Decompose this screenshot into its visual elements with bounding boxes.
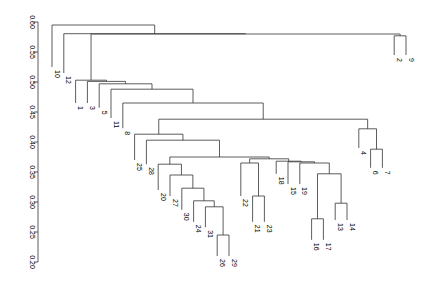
leaf-label: 17 — [325, 243, 332, 251]
leaf-label: 20 — [160, 193, 167, 201]
tick-label: 0.30 — [29, 195, 36, 209]
leaf-label: 21 — [254, 225, 261, 233]
leaf-label: 11 — [113, 121, 120, 128]
leaf-label: 22 — [242, 199, 249, 207]
tick-label: 0.40 — [29, 135, 36, 149]
leaf-label: 9 — [408, 58, 415, 62]
leaf-label: 19 — [301, 187, 308, 195]
leaf-label: 27 — [172, 199, 179, 207]
leaf-label: 13 — [337, 223, 344, 231]
leaf-label: 26 — [219, 259, 226, 267]
leaf-label: 2 — [396, 58, 403, 62]
leaf-label: 23 — [266, 225, 273, 233]
leaf-label: 31 — [207, 230, 214, 238]
leaf-label: 24 — [195, 225, 202, 233]
tick-label: 0.25 — [29, 225, 36, 239]
leaf-label: 25 — [136, 163, 143, 171]
tick-label: 0.55 — [29, 45, 36, 59]
y-axis: 0.200.250.300.350.400.450.500.550.60 — [29, 15, 38, 269]
leaf-label: 15 — [290, 187, 297, 195]
leaf-label: 16 — [313, 243, 320, 251]
leaf-label: 7 — [384, 171, 391, 175]
leaf-label: 3 — [89, 106, 96, 110]
leaf-labels: 1012135118252820273024312629222123181519… — [54, 58, 415, 267]
dendrogram-tree — [52, 25, 406, 256]
tick-label: 0.35 — [29, 165, 36, 179]
leaf-label: 18 — [278, 177, 285, 185]
leaf-label: 4 — [360, 151, 367, 155]
tick-label: 0.45 — [29, 105, 36, 119]
leaf-label: 29 — [231, 259, 238, 267]
leaf-label: 6 — [372, 171, 379, 175]
leaf-label: 5 — [101, 111, 108, 115]
dendrogram-chart: 0.200.250.300.350.400.450.500.550.60 101… — [0, 0, 430, 292]
leaf-label: 28 — [148, 167, 155, 175]
leaf-label: 12 — [65, 76, 72, 84]
leaf-label: 8 — [124, 131, 131, 135]
leaf-label: 1 — [77, 106, 84, 110]
tick-label: 0.20 — [29, 255, 36, 269]
tick-label: 0.60 — [29, 15, 36, 29]
tick-label: 0.50 — [29, 75, 36, 89]
leaf-label: 30 — [183, 213, 190, 221]
leaf-label: 10 — [54, 70, 61, 78]
leaf-label: 14 — [349, 223, 356, 231]
